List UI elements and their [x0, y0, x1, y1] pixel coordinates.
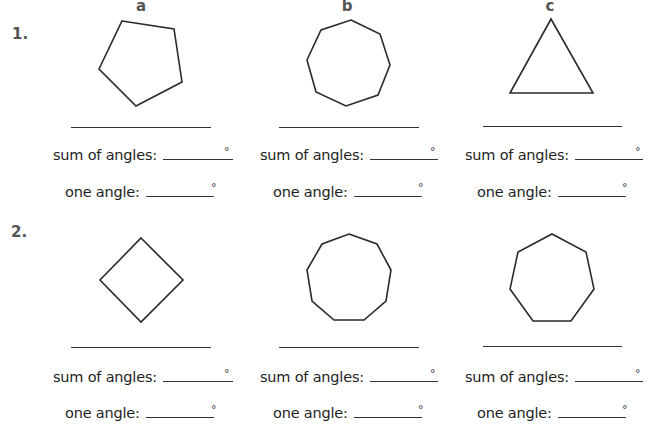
one-angle-1a: one angle: [65, 182, 214, 200]
heptagon-shape [510, 234, 594, 321]
shape-name-line-1c[interactable] [483, 126, 622, 127]
square-shape [100, 238, 183, 322]
degree-icon: ° [622, 181, 628, 194]
one-angle-blank-2c[interactable] [558, 403, 626, 418]
sum-of-angles-blank-1a[interactable] [163, 145, 233, 160]
sum-of-angles-1b: sum of angles: [260, 145, 438, 163]
degree-icon: ° [224, 145, 230, 158]
triangle-shape [510, 19, 593, 93]
shape-name-line-2c[interactable] [483, 346, 622, 347]
degree-icon: ° [418, 403, 424, 416]
sum-of-angles-1c: sum of angles: [465, 145, 643, 163]
sum-of-angles-label: sum of angles: [53, 369, 157, 385]
one-angle-label: one angle: [273, 405, 348, 421]
one-angle-label: one angle: [65, 184, 140, 200]
sum-of-angles-1a: sum of angles: [53, 145, 233, 163]
shape-name-line-2a[interactable] [71, 347, 211, 348]
nonagon-shape [307, 234, 391, 320]
sum-of-angles-2b: sum of angles: [260, 367, 438, 385]
sum-of-angles-blank-1c[interactable] [575, 145, 643, 160]
one-angle-label: one angle: [65, 405, 140, 421]
sum-of-angles-label: sum of angles: [465, 147, 569, 163]
sum-of-angles-label: sum of angles: [465, 369, 569, 385]
shape-name-line-2b[interactable] [279, 347, 419, 348]
sum-of-angles-blank-1b[interactable] [370, 145, 438, 160]
one-angle-1c: one angle: [477, 182, 626, 200]
sum-of-angles-label: sum of angles: [260, 369, 364, 385]
degree-icon: ° [418, 181, 424, 194]
one-angle-2b: one angle: [273, 403, 422, 421]
one-angle-2c: one angle: [477, 403, 626, 421]
one-angle-blank-2b[interactable] [354, 403, 422, 418]
degree-icon: ° [211, 181, 217, 194]
one-angle-label: one angle: [477, 405, 552, 421]
sum-of-angles-label: sum of angles: [260, 147, 364, 163]
sum-of-angles-blank-2a[interactable] [163, 367, 233, 382]
degree-icon: ° [622, 403, 628, 416]
degree-icon: ° [224, 367, 230, 380]
sum-of-angles-blank-2c[interactable] [575, 367, 643, 382]
sum-of-angles-2c: sum of angles: [465, 367, 643, 385]
degree-icon: ° [430, 367, 436, 380]
one-angle-blank-1a[interactable] [146, 182, 214, 197]
one-angle-1b: one angle: [273, 182, 422, 200]
octagon-shape [307, 20, 390, 106]
degree-icon: ° [635, 367, 641, 380]
one-angle-label: one angle: [273, 184, 348, 200]
one-angle-label: one angle: [477, 184, 552, 200]
degree-icon: ° [635, 145, 641, 158]
one-angle-2a: one angle: [65, 403, 214, 421]
one-angle-blank-1b[interactable] [354, 182, 422, 197]
sum-of-angles-blank-2b[interactable] [370, 367, 438, 382]
one-angle-blank-1c[interactable] [558, 182, 626, 197]
shape-name-line-1b[interactable] [279, 127, 419, 128]
sum-of-angles-label: sum of angles: [53, 147, 157, 163]
degree-icon: ° [430, 145, 436, 158]
degree-icon: ° [211, 403, 217, 416]
pentagon-shape [99, 21, 182, 106]
shape-name-line-1a[interactable] [71, 127, 211, 128]
one-angle-blank-2a[interactable] [146, 403, 214, 418]
sum-of-angles-2a: sum of angles: [53, 367, 233, 385]
